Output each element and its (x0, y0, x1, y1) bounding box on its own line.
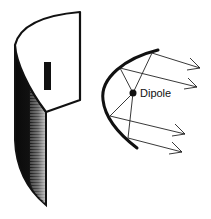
arrowhead-icon (169, 142, 182, 154)
reflector-3d (15, 12, 80, 205)
arrowheads (169, 58, 200, 154)
feed-slot (44, 62, 51, 90)
dipole-dot (130, 90, 137, 97)
reflector-cross-section: Dipole (103, 50, 200, 154)
antenna-reflector-diagram: Dipole (0, 0, 211, 219)
parabola-curve (103, 50, 158, 148)
arrowhead-icon (172, 124, 185, 136)
arrowhead-icon (184, 78, 197, 89)
arrowhead-icon (187, 58, 200, 70)
dipole-label: Dipole (140, 87, 171, 99)
